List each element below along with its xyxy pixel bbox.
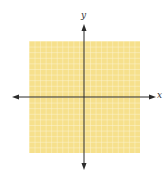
y-axis-up-arrow-icon [82,24,87,31]
coordinate-plane-graphic [0,0,168,176]
x-axis-label: x [157,91,162,100]
x-axis-left-arrow-icon [12,95,19,100]
y-axis-label: y [81,11,86,20]
x-axis-right-arrow-icon [149,95,156,100]
coordinate-plane: y x [0,0,168,176]
y-axis-down-arrow-icon [82,163,87,170]
